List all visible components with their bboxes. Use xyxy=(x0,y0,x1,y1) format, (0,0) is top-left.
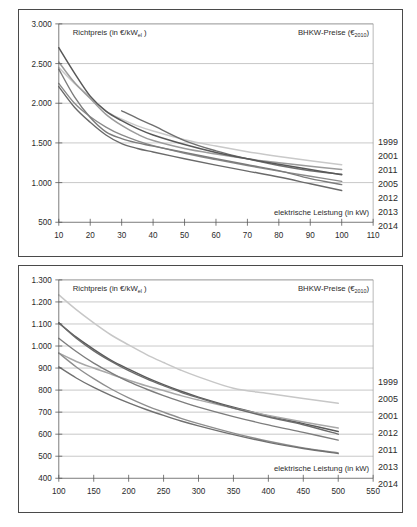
x-axis-caption: elektrische Leistung (in kW) xyxy=(274,464,370,473)
x-tick-label: 80 xyxy=(274,231,284,240)
legend-item-2001[interactable]: 2001 xyxy=(378,151,398,161)
y-tick-label: 1.500 xyxy=(31,139,52,148)
axes xyxy=(59,280,373,478)
legend-item-2013[interactable]: 2013 xyxy=(378,462,398,472)
x-tick-label: 200 xyxy=(122,487,136,496)
x-tick-label: 90 xyxy=(306,231,316,240)
series-line-2001 xyxy=(59,62,342,170)
y-tick-label: 2.500 xyxy=(31,60,52,69)
series-group xyxy=(59,48,342,191)
y-tick-label: 400 xyxy=(38,474,52,483)
series-line-2012 xyxy=(59,323,338,434)
x-tick-label: 60 xyxy=(211,231,221,240)
legend-item-2011[interactable]: 2011 xyxy=(378,445,397,455)
y-tick-label: 2.000 xyxy=(31,99,52,108)
x-tick-label: 50 xyxy=(180,231,190,240)
x-tick-label: 450 xyxy=(297,487,311,496)
x-tick-label: 350 xyxy=(227,487,241,496)
legend: 1999200520012012201120132014 xyxy=(378,377,398,489)
y-tick-label: 900 xyxy=(38,364,52,373)
legend-item-2014[interactable]: 2014 xyxy=(378,221,398,231)
legend-item-2005[interactable]: 2005 xyxy=(378,394,398,404)
x-tick-label: 20 xyxy=(86,231,96,240)
legend-item-2013[interactable]: 2013 xyxy=(378,207,398,217)
x-tick-label: 100 xyxy=(335,231,349,240)
x-tick-label: 250 xyxy=(157,487,171,496)
chart-corner-caption: BHKW-Preise (€2010) xyxy=(298,28,370,38)
legend: 1999200120112005201220132014 xyxy=(378,137,398,231)
axes xyxy=(59,24,373,222)
chart-top: 5001.0001.5002.0002.5003.000102030405060… xyxy=(19,10,402,256)
y-tick-label: 600 xyxy=(38,430,52,439)
chart-corner-caption: BHKW-Preise (€2010) xyxy=(298,284,370,294)
plot-frame xyxy=(59,280,373,478)
legend-item-2011[interactable]: 2011 xyxy=(378,165,397,175)
y-tick-label: 500 xyxy=(38,218,52,227)
legend-item-2005[interactable]: 2005 xyxy=(378,179,398,189)
y-axis-caption: Richtpreis (in €/kWel ) xyxy=(73,28,147,38)
x-tick-label: 110 xyxy=(367,231,380,240)
x-tick-label: 100 xyxy=(52,487,66,496)
legend-item-2012[interactable]: 2012 xyxy=(378,193,398,203)
y-tick-label: 3.000 xyxy=(31,20,52,29)
x-tick-label: 10 xyxy=(54,231,64,240)
x-tick-label: 400 xyxy=(262,487,276,496)
chart-bottom: 4005006007008009001.0001.1001.2001.30010… xyxy=(19,266,402,512)
x-tick-label: 40 xyxy=(149,231,159,240)
series-line-2012 xyxy=(59,83,342,181)
legend-item-1999[interactable]: 1999 xyxy=(378,377,398,387)
figure-page: 5001.0001.5002.0002.5003.000102030405060… xyxy=(0,0,417,527)
x-tick-label: 500 xyxy=(331,487,345,496)
x-tick-label: 300 xyxy=(192,487,206,496)
legend-item-1999[interactable]: 1999 xyxy=(378,137,398,147)
legend-item-2014[interactable]: 2014 xyxy=(378,479,398,489)
chart-panel-top: 5001.0001.5002.0002.5003.000102030405060… xyxy=(18,9,403,257)
series-line-1999 xyxy=(59,295,338,403)
chart-panel-bottom: 4005006007008009001.0001.1001.2001.30010… xyxy=(18,265,403,513)
legend-item-2012[interactable]: 2012 xyxy=(378,428,398,438)
x-tick-label: 70 xyxy=(243,231,253,240)
y-tick-label: 800 xyxy=(38,386,52,395)
legend-item-2001[interactable]: 2001 xyxy=(378,411,398,421)
x-tick-label: 30 xyxy=(117,231,127,240)
series-line-1999 xyxy=(59,68,342,165)
plot-frame xyxy=(59,24,373,222)
x-tick-label: 150 xyxy=(87,487,101,496)
x-axis-caption: elektrische Leistung (in kW) xyxy=(274,208,370,217)
y-tick-labels: 5001.0001.5002.0002.5003.000 xyxy=(31,20,62,227)
y-tick-label: 500 xyxy=(38,452,52,461)
series-line-2011 xyxy=(122,111,342,174)
y-tick-label: 1.100 xyxy=(31,320,52,329)
y-axis-caption: Richtpreis (in €/kWel ) xyxy=(73,284,147,294)
y-tick-label: 700 xyxy=(38,408,52,417)
series-line-2014 xyxy=(59,367,338,454)
y-tick-labels: 4005006007008009001.0001.1001.2001.300 xyxy=(31,276,62,483)
y-tick-label: 1.200 xyxy=(31,298,52,307)
y-tick-label: 1.000 xyxy=(31,342,52,351)
y-tick-label: 1.300 xyxy=(31,276,52,285)
y-tick-label: 1.000 xyxy=(31,179,52,188)
series-group xyxy=(59,295,338,454)
